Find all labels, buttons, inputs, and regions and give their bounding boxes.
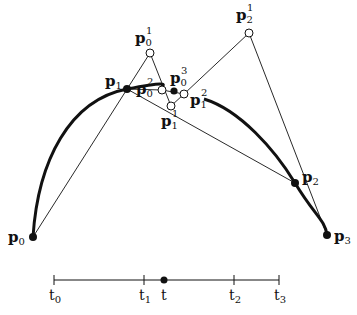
point-p2 xyxy=(291,179,299,187)
point-p0_1 xyxy=(146,49,154,57)
point-p3 xyxy=(323,231,331,239)
label-p0_3: p03 xyxy=(170,65,187,88)
curve-segment-left xyxy=(33,84,163,237)
label-p0_2: p02 xyxy=(136,76,153,99)
de-casteljau-diagram: p0p1p2p3p01p11p21p02p12p03 t0t1t2t3t xyxy=(0,0,357,315)
point-p1 xyxy=(123,85,131,93)
point-p0_2 xyxy=(158,86,166,94)
construction-lines xyxy=(33,33,327,237)
label-p1_1: p11 xyxy=(161,108,178,131)
curve-segments xyxy=(33,84,327,237)
parameter-axis: t0t1t2t3t xyxy=(49,275,286,305)
axis-label-t3: t3 xyxy=(274,287,286,305)
label-p3: p3 xyxy=(334,227,351,246)
label-p2_1: p21 xyxy=(236,2,253,25)
axis-label-t1: t1 xyxy=(139,287,151,305)
label-p1_2: p12 xyxy=(190,87,207,110)
polygon-line xyxy=(249,33,327,235)
axis-label-t2: t2 xyxy=(229,287,241,305)
point-p0 xyxy=(29,233,37,241)
diagram-canvas: p0p1p2p3p01p11p21p02p12p03 t0t1t2t3t xyxy=(0,0,357,315)
point-labels: p0p1p2p3p01p11p21p02p12p03 xyxy=(8,2,351,247)
point-p2_1 xyxy=(245,29,253,37)
label-p0_1: p01 xyxy=(135,25,152,48)
polygon-line xyxy=(33,53,150,237)
point-p1_2 xyxy=(180,90,188,98)
label-p0: p0 xyxy=(8,228,25,247)
point-p0_3 xyxy=(170,87,177,94)
label-p2: p2 xyxy=(302,168,319,187)
axis-label-t: t xyxy=(161,287,167,303)
points xyxy=(29,29,331,241)
polygon-line xyxy=(184,33,249,94)
axis-marker-t xyxy=(161,277,168,284)
axis-label-t0: t0 xyxy=(49,287,61,305)
label-p1: p1 xyxy=(105,72,122,91)
